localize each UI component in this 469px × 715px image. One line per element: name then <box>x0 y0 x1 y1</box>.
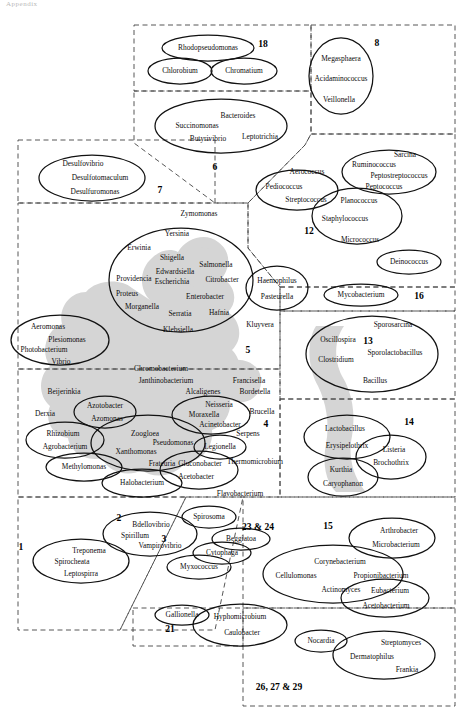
label-caryophanon: Caryophanon <box>323 480 363 487</box>
label-erwinia: Erwinia <box>127 244 150 251</box>
ellipse-hyphomicrobium[interactable] <box>193 604 287 646</box>
group-number-16[interactable]: 16 <box>414 290 424 301</box>
group-number-23_24[interactable]: 23 & 24 <box>242 521 274 532</box>
label-dermatophilus: Dermatophilus <box>350 653 394 660</box>
label-oscillospira: Oscillospira <box>320 336 356 343</box>
label-lactobacillus: Lactobacillus <box>325 425 365 432</box>
label-sporosarcina: Sporosarcina <box>374 321 413 328</box>
label-myxococcus: Myxococcus <box>180 563 218 570</box>
label-acidaminococcus: Acidaminococcus <box>315 75 368 82</box>
label-neisseria: Neisseria <box>205 401 233 408</box>
label-edwardsiella: Edwardsiella <box>156 268 195 275</box>
label-pseudomonas: Pseudomonas <box>153 439 194 446</box>
label-rhizobium: Rhizobium <box>47 430 80 437</box>
label-photobacterium: Photobacterium <box>21 346 68 353</box>
label-butyrivibrio: Butyrivibrio <box>190 135 227 142</box>
group-number-2[interactable]: 2 <box>117 512 122 523</box>
label-sarcina: Sarcina <box>394 151 416 158</box>
label-desulfuromonas: Desulfuromonas <box>71 188 120 195</box>
label-azomonas: Azomonas <box>91 415 123 422</box>
label-bacillus: Bacillus <box>363 377 387 384</box>
label-gluconobacter: Gluconobacter <box>178 460 222 467</box>
label-spirillum: Spirillum <box>121 532 149 539</box>
label-zymomonas: Zymomonas <box>181 210 218 217</box>
label-nocardia: Nocardia <box>307 637 334 644</box>
label-clostridium: Clostridium <box>318 356 353 363</box>
label-xanthomonas: Xanthomonas <box>115 448 156 455</box>
group-number-14[interactable]: 14 <box>404 416 414 427</box>
label-mycobacterium: Mycobacterium <box>338 291 385 298</box>
label-spirocheata: Spirocheata <box>55 558 90 565</box>
label-flavobacterium: Flavobacterium <box>217 490 263 497</box>
label-morganella: Morganella <box>125 303 159 310</box>
label-acetobacterium: Acetobacterium <box>362 602 409 609</box>
label-frateuria: Frateuria <box>149 460 176 467</box>
group-number-8[interactable]: 8 <box>375 37 380 48</box>
label-leptospirra: Leptospirra <box>64 570 98 577</box>
group-number-6[interactable]: 6 <box>213 161 218 172</box>
label-corynebacterium: Corynebacterium <box>314 558 365 565</box>
label-veillonella: Veillonella <box>323 96 355 103</box>
label-klebsiella: Klebsiella <box>163 326 193 333</box>
ellipse-haemophilus[interactable] <box>246 266 308 310</box>
label-desulfovibrio: Desulfovibrio <box>62 160 103 167</box>
label-providencia: Providencia <box>116 275 151 282</box>
group-number-15[interactable]: 15 <box>323 520 333 531</box>
label-desulfotomaculum: Desulfotomaculum <box>72 174 129 181</box>
group-number-12[interactable]: 12 <box>304 225 314 236</box>
label-aeromonas: Aeromonas <box>31 323 65 330</box>
label-cytophaga: Cytophaga <box>206 549 238 556</box>
label-staphylococcus: Staphylococcus <box>322 215 368 222</box>
label-citrobacter: Citrobacter <box>205 276 238 283</box>
label-acetobacter: Acetobacter <box>178 473 214 480</box>
label-propionibacterium: Propionibacterium <box>353 572 408 579</box>
label-streptococcus: Streptococcus <box>285 196 326 203</box>
group-number-7[interactable]: 7 <box>158 184 163 195</box>
label-agrobacterium: Agrobacterium <box>43 443 88 450</box>
label-pasteurella: Pasteurella <box>261 293 293 300</box>
label-methylomonas: Methylomonas <box>62 463 106 470</box>
label-planococcus: Planococcus <box>341 197 378 204</box>
label-pediococcus: Pediococcus <box>266 183 303 190</box>
label-halobacterium: Halobacterium <box>120 479 164 486</box>
group-number-5[interactable]: 5 <box>246 344 251 355</box>
label-escherichia: Escherichia <box>155 278 189 285</box>
group-number-18[interactable]: 18 <box>258 38 268 49</box>
group-number-3[interactable]: 3 <box>162 533 167 544</box>
label-serpens: Serpens <box>236 430 259 437</box>
label-zoogloea: Zoogloea <box>131 430 159 437</box>
group-number-21[interactable]: 21 <box>165 623 175 634</box>
label-megasphaera: Megasphaera <box>321 55 360 62</box>
label-ruminococcus: Ruminococcus <box>352 161 396 168</box>
ellipse-arthrobacter[interactable] <box>349 518 435 558</box>
label-cellulomonas: Cellulomonas <box>275 572 316 579</box>
group-number-13[interactable]: 13 <box>363 335 373 346</box>
label-micrococcus: Micrococcus <box>341 236 379 243</box>
label-derxia: Derxia <box>35 410 55 417</box>
label-rhodopseudomonas: Rhodopseudomonas <box>178 44 238 51</box>
label-proteus: Proteus <box>116 290 138 297</box>
label-streptomyces: Streptomyces <box>381 639 421 646</box>
label-bdellovibrio: Bdellovibrio <box>132 521 169 528</box>
group-number-4[interactable]: 4 <box>264 418 269 429</box>
label-thermomicrobium: Thermomicrobium <box>227 458 283 465</box>
label-alcaligenes: Alcaligenes <box>186 388 221 395</box>
label-listeria: Listeria <box>383 446 406 453</box>
label-enterobacter: Enterobacter <box>186 293 224 300</box>
label-chromatium: Chromatium <box>225 67 262 74</box>
group-number-26_27_29[interactable]: 26, 27 & 29 <box>256 681 302 692</box>
label-salmonella: Salmonella <box>199 261 232 268</box>
label-arthrobacter: Arthrobacter <box>380 527 418 534</box>
region-123[interactable] <box>18 497 186 630</box>
label-kurthia: Kurthia <box>330 466 353 473</box>
label-leptotrichia: Leptotrichia <box>242 133 278 140</box>
label-moraxella: Moraxella <box>189 411 219 418</box>
label-kluyvera: Kluyvera <box>246 321 274 328</box>
label-hafnia: Hafnia <box>209 309 229 316</box>
label-legionella: Legionella <box>204 443 236 450</box>
label-serratia: Serratia <box>169 310 192 317</box>
label-francisella: Francisella <box>233 377 265 384</box>
label-deinococcus: Deinococcus <box>390 258 428 265</box>
label-sporolactobacillus: Sporolactobacillus <box>367 349 422 356</box>
group-number-1[interactable]: 1 <box>19 541 24 552</box>
